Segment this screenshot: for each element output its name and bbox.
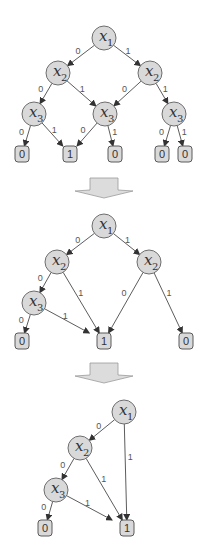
node-subscript: 3 [108, 113, 114, 124]
node-subscript: 2 [83, 447, 89, 458]
edge-label: 0 [19, 315, 24, 325]
variable-node-x2: x2 [68, 436, 92, 460]
edge-label: 1 [112, 127, 117, 137]
edge-label: 1 [128, 452, 133, 462]
edge-label: 0 [96, 421, 101, 431]
edge-b2-bl2 [63, 272, 99, 333]
terminal-node-0: 0 [15, 146, 29, 162]
edge-label: 1 [80, 84, 85, 94]
edge-b3-bl2 [109, 272, 144, 333]
terminal-node-0: 0 [38, 520, 52, 536]
edge-b1-b2 [67, 233, 95, 254]
terminal-node-0: 0 [179, 333, 193, 349]
terminal-node-1: 1 [63, 146, 77, 162]
terminal-node-1: 1 [120, 520, 134, 536]
terminal-value: 0 [182, 148, 188, 160]
edge-c1-cl2 [124, 424, 126, 520]
reduced-bdd: 010101x1x2x301 [38, 400, 136, 536]
terminal-node-0: 0 [15, 333, 29, 349]
terminal-value: 0 [19, 335, 25, 347]
node-subscript: 1 [107, 225, 113, 236]
edge-label: 1 [125, 46, 130, 56]
edge-c1-c2 [89, 420, 114, 441]
edge-a1-a2 [68, 45, 95, 65]
edges: 010101 [41, 420, 132, 520]
edges: 01010101 [19, 233, 182, 333]
edge-label: 0 [75, 235, 80, 245]
node-subscript: 2 [60, 261, 66, 272]
edge-a3-a5 [114, 81, 141, 106]
full-decision-tree: 010101010101x1x2x2x3x3x301000 [15, 26, 192, 162]
bdd-reduction-figure: 010101010101x1x2x2x3x3x30100001010101x1x… [0, 0, 206, 550]
node-subscript: 1 [107, 37, 113, 48]
node-subscript: 2 [153, 72, 159, 83]
edge-label: 0 [60, 460, 65, 470]
variable-node-x3: x3 [22, 102, 46, 126]
diagrams: 010101010101x1x2x2x3x3x30100001010101x1x… [15, 26, 193, 536]
variable-node-x3: x3 [162, 102, 186, 126]
terminal-value: 1 [124, 522, 130, 534]
terminal-value: 0 [42, 522, 48, 534]
edge-a4-al1 [24, 125, 30, 146]
node-subscript: 2 [61, 72, 67, 83]
node-subscript: 3 [59, 489, 65, 500]
terminal-node-1: 1 [97, 333, 111, 349]
variable-node-x2: x2 [46, 61, 70, 85]
edge-label: 1 [182, 127, 187, 137]
node-subscript: 3 [37, 302, 43, 313]
variable-node-x2: x2 [137, 250, 161, 274]
node-subscript: 1 [127, 411, 133, 422]
variable-node-x1: x1 [112, 400, 136, 424]
partially-reduced-diagram: 01010101x1x2x2x3010 [15, 214, 193, 349]
terminal-value: 0 [112, 148, 118, 160]
edge-label: 1 [63, 311, 68, 321]
terminal-value: 1 [101, 335, 107, 347]
transition-arrows [75, 178, 133, 383]
edge-label: 0 [122, 84, 127, 94]
variable-node-x1: x1 [92, 214, 116, 238]
terminal-value: 0 [183, 335, 189, 347]
edge-label: 1 [163, 84, 168, 94]
edge-label: 0 [159, 127, 164, 137]
terminal-value: 1 [67, 148, 73, 160]
edge-b3-bl3 [154, 273, 182, 333]
terminal-value: 0 [19, 148, 25, 160]
edge-label: 1 [85, 498, 90, 508]
edge-c3-cl1 [47, 502, 52, 520]
node-subscript: 3 [177, 113, 183, 124]
edge-label: 1 [78, 288, 83, 298]
reduce-arrow-2-icon [75, 363, 133, 383]
edge-label: 0 [76, 46, 81, 56]
edge-label: 1 [52, 125, 57, 135]
edge-label: 1 [166, 288, 171, 298]
terminal-node-0: 0 [178, 146, 192, 162]
terminal-node-0: 0 [155, 146, 169, 162]
edge-a6-al4 [164, 125, 170, 146]
terminal-value: 0 [159, 148, 165, 160]
edge-b4-bl1 [25, 314, 31, 333]
variable-node-x3: x3 [44, 478, 68, 502]
edge-label: 0 [38, 84, 43, 94]
variable-node-x1: x1 [92, 26, 116, 50]
variable-node-x2: x2 [45, 250, 69, 274]
variable-node-x2: x2 [138, 61, 162, 85]
edge-c2-cl2 [86, 458, 122, 520]
reduce-arrow-1-icon [75, 178, 133, 198]
edge-label: 1 [101, 474, 106, 484]
edge-label: 1 [125, 235, 130, 245]
variable-node-x3: x3 [93, 102, 117, 126]
edge-label: 0 [81, 125, 86, 135]
edges: 010101010101 [19, 45, 187, 146]
edge-label: 0 [121, 288, 126, 298]
node-subscript: 3 [37, 113, 43, 124]
edge-label: 0 [38, 273, 43, 283]
variable-node-x3: x3 [22, 291, 46, 315]
node-subscript: 2 [152, 261, 158, 272]
terminal-node-0: 0 [108, 146, 122, 162]
edge-label: 0 [41, 502, 46, 512]
edge-label: 0 [19, 127, 24, 137]
